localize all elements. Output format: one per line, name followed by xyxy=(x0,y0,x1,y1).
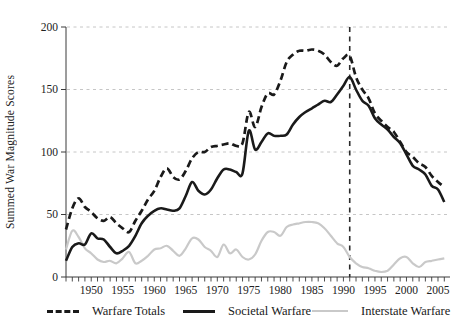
y-axis: 050100150200 xyxy=(41,21,66,283)
chart-figure: Summed War Magnitude Scores 050100150200… xyxy=(0,0,469,331)
warfare-totals-line xyxy=(66,50,444,233)
societal-warfare-line xyxy=(66,77,444,261)
warfare-totals-line-sample xyxy=(47,310,79,313)
x-tick-label: 1955 xyxy=(111,284,134,296)
x-tick-label: 1975 xyxy=(237,284,260,296)
chart-legend: Warfare Totals Societal Warfare Intersta… xyxy=(0,302,469,324)
x-tick-label: 1985 xyxy=(300,284,323,296)
legend-label: Interstate Warfare xyxy=(361,304,450,319)
legend-label: Warfare Totals xyxy=(92,304,165,319)
x-tick-label: 1960 xyxy=(143,284,166,296)
legend-label: Societal Warfare xyxy=(228,304,311,319)
x-tick-label: 1980 xyxy=(269,284,292,296)
y-tick-label: 0 xyxy=(52,271,58,283)
y-tick-label: 150 xyxy=(41,83,59,95)
legend-item-societal-warfare: Societal Warfare xyxy=(183,302,311,320)
x-tick-label: 1990 xyxy=(332,284,355,296)
y-tick-label: 50 xyxy=(47,208,59,220)
x-tick-label: 1970 xyxy=(206,284,229,296)
x-tick-label: 1965 xyxy=(174,284,197,296)
legend-item-interstate-warfare: Interstate Warfare xyxy=(312,302,450,320)
societal-warfare-line-sample xyxy=(183,310,215,313)
chart-canvas: 0501001502001950195519601965197019751980… xyxy=(0,0,469,331)
y-tick-label: 200 xyxy=(41,21,59,33)
y-tick-label: 100 xyxy=(41,146,59,158)
x-axis: 1950195519601965197019751980198519901995… xyxy=(66,277,450,296)
x-tick-label: 2000 xyxy=(395,284,418,296)
x-tick-label: 1950 xyxy=(80,284,103,296)
x-tick-label: 1995 xyxy=(363,284,386,296)
x-tick-label: 2005 xyxy=(426,284,449,296)
legend-item-warfare-totals: Warfare Totals xyxy=(47,302,165,320)
interstate-warfare-line-sample xyxy=(312,310,348,312)
